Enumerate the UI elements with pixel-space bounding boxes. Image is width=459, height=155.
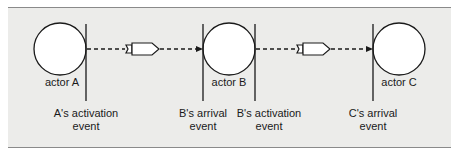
event-a-activation-line2: event <box>46 120 126 133</box>
event-a-activation-line1: A's activation <box>46 107 126 120</box>
event-c-arrival: C's arrival event <box>333 107 413 133</box>
event-c-arrival-line1: C's arrival <box>333 107 413 120</box>
arrowhead-icon <box>366 46 373 52</box>
actor-a-label: actor A <box>38 76 86 89</box>
actor-b-label: actor B <box>205 76 253 89</box>
actor-c-label: actor C <box>375 76 423 89</box>
actor-b-circle <box>203 23 255 75</box>
actor-a-circle <box>34 23 86 75</box>
arrowhead-icon <box>196 46 203 52</box>
event-c-arrival-line2: event <box>333 120 413 133</box>
event-b-activation-line2: event <box>227 120 311 133</box>
message-token-icon <box>126 43 159 55</box>
event-a-activation: A's activation event <box>46 107 126 133</box>
event-b-activation-line1: B's activation <box>227 107 311 120</box>
actor-c-circle <box>373 23 425 75</box>
event-b-activation: B's activation event <box>227 107 311 133</box>
message-token-icon <box>297 43 330 55</box>
